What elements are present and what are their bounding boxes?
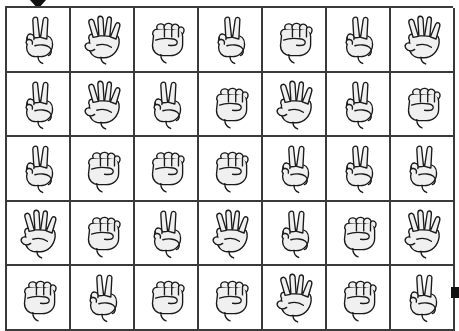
grid-cell[interactable] (263, 8, 327, 73)
hand-rock-icon (140, 13, 192, 65)
hand-scissors-icon (332, 142, 384, 194)
grid-cell[interactable] (327, 73, 391, 138)
hand-paper-icon (268, 271, 320, 323)
grid-cell[interactable] (199, 73, 263, 138)
hand-rock-icon (76, 142, 128, 194)
hand-scissors-icon (12, 13, 64, 65)
hand-rock-icon (332, 271, 384, 323)
hand-paper-icon (396, 207, 448, 259)
hand-rock-icon (396, 78, 448, 130)
grid-cell[interactable] (391, 202, 455, 267)
grid-cell[interactable] (135, 73, 199, 138)
grid-cell[interactable] (391, 8, 455, 73)
grid-cell[interactable] (135, 8, 199, 73)
hand-scissors-icon (268, 142, 320, 194)
hand-gesture-grid (5, 6, 453, 331)
hand-rock-icon (268, 13, 320, 65)
grid-cell[interactable] (327, 266, 391, 331)
grid-cell[interactable] (391, 73, 455, 138)
hand-rock-icon (332, 207, 384, 259)
hand-paper-icon (396, 13, 448, 65)
grid-cell[interactable] (7, 266, 71, 331)
hand-rock-icon (204, 78, 256, 130)
grid-cell[interactable] (263, 137, 327, 202)
grid-cell[interactable] (263, 73, 327, 138)
grid-cell[interactable] (71, 266, 135, 331)
grid-cell[interactable] (7, 202, 71, 267)
hand-rock-icon (76, 207, 128, 259)
grid-cell[interactable] (199, 266, 263, 331)
grid-cell[interactable] (71, 137, 135, 202)
hand-paper-icon (12, 207, 64, 259)
grid-cell[interactable] (199, 137, 263, 202)
grid-cell[interactable] (135, 137, 199, 202)
hand-scissors-icon (204, 13, 256, 65)
grid-cell[interactable] (327, 202, 391, 267)
grid-cell[interactable] (7, 73, 71, 138)
grid-cell[interactable] (263, 202, 327, 267)
hand-rock-icon (140, 142, 192, 194)
grid-cell[interactable] (71, 73, 135, 138)
hand-scissors-icon (140, 207, 192, 259)
hand-scissors-icon (140, 78, 192, 130)
hand-paper-icon (204, 207, 256, 259)
grid-cell[interactable] (135, 266, 199, 331)
grid-cell[interactable] (263, 266, 327, 331)
hand-scissors-icon (396, 142, 448, 194)
hand-paper-icon (76, 13, 128, 65)
grid-cell[interactable] (135, 202, 199, 267)
hand-scissors-icon (12, 78, 64, 130)
grid-cell[interactable] (7, 8, 71, 73)
grid-cell[interactable] (7, 137, 71, 202)
hand-scissors-icon (12, 142, 64, 194)
grid-cell[interactable] (391, 266, 455, 331)
hand-rock-icon (12, 271, 64, 323)
hand-scissors-icon (332, 78, 384, 130)
hand-scissors-icon (396, 271, 448, 323)
right-square-marker (451, 287, 459, 298)
hand-paper-icon (76, 78, 128, 130)
hand-scissors-icon (332, 13, 384, 65)
hand-rock-icon (204, 142, 256, 194)
hand-scissors-icon (268, 207, 320, 259)
hand-paper-icon (268, 78, 320, 130)
grid-cell[interactable] (199, 202, 263, 267)
grid-cell[interactable] (391, 137, 455, 202)
grid-cell[interactable] (327, 8, 391, 73)
hand-scissors-icon (76, 271, 128, 323)
hand-rock-icon (204, 271, 256, 323)
hand-rock-icon (140, 271, 192, 323)
grid-cell[interactable] (199, 8, 263, 73)
grid-cell[interactable] (71, 8, 135, 73)
grid-cell[interactable] (327, 137, 391, 202)
grid-cell[interactable] (71, 202, 135, 267)
